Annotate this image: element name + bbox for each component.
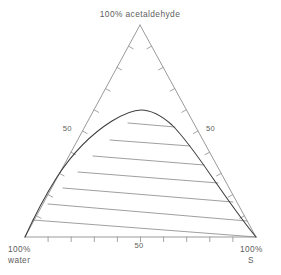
tick-left-3 xyxy=(106,89,111,92)
tie-line-5 xyxy=(63,188,233,202)
bottom-left-label-line2: water xyxy=(7,255,30,265)
bottom-axis-tick-label: 50 xyxy=(134,241,143,250)
tie-line-3 xyxy=(93,156,204,165)
bottom-right-label-line1: 100% xyxy=(240,244,263,254)
tie-lines xyxy=(33,123,256,237)
bottom-left-label-line1: 100% xyxy=(8,244,31,254)
right-edge-ticks xyxy=(147,46,244,218)
tick-left-4 xyxy=(94,110,99,113)
ternary-phase-diagram: 100% acetaldehyde 100% water 100% S 50 5… xyxy=(0,0,281,275)
tick-left-8 xyxy=(48,195,53,198)
tick-right-7 xyxy=(217,173,222,176)
tick-left-1 xyxy=(129,46,134,49)
tie-line-1 xyxy=(128,123,175,127)
bottom-right-label-line2: S xyxy=(248,255,254,265)
left-axis-tick-label: 50 xyxy=(63,124,72,133)
tick-right-4 xyxy=(182,110,187,113)
apex-label: 100% acetaldehyde xyxy=(100,9,180,19)
tick-right-5 xyxy=(193,131,198,134)
tie-line-2 xyxy=(110,140,190,146)
tie-line-7 xyxy=(33,220,256,237)
right-axis-tick-label: 50 xyxy=(206,124,215,133)
tick-right-2 xyxy=(159,67,164,70)
tick-right-8 xyxy=(228,195,233,198)
tick-left-9 xyxy=(37,216,42,219)
tick-left-5 xyxy=(83,131,88,134)
tick-right-3 xyxy=(170,89,175,92)
tick-right-1 xyxy=(147,46,152,49)
tie-line-6 xyxy=(48,204,247,221)
tick-right-6 xyxy=(205,152,210,155)
tick-left-7 xyxy=(60,173,65,176)
tie-line-4 xyxy=(78,172,218,183)
tick-left-2 xyxy=(117,67,122,70)
